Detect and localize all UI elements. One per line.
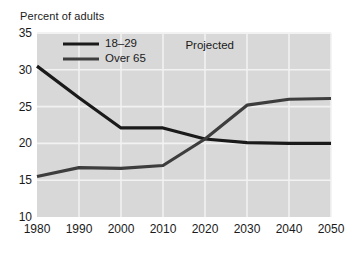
line-chart: Percent of adults 101520253035 198019902… — [0, 0, 352, 255]
y-tick-label: 30 — [2, 64, 32, 76]
x-tick-label: 2020 — [183, 223, 227, 235]
y-tick-label: 20 — [2, 137, 32, 149]
x-tick-label: 2050 — [309, 223, 352, 235]
x-tick-label: 2040 — [267, 223, 311, 235]
x-tick-label: 2000 — [99, 223, 143, 235]
projected-annotation: Projected — [185, 39, 234, 51]
y-tick-label: 15 — [2, 174, 32, 186]
y-tick-label: 25 — [2, 101, 32, 113]
plot-area — [0, 0, 352, 255]
x-tick-label: 2030 — [225, 223, 269, 235]
x-tick-label: 1990 — [57, 223, 101, 235]
y-tick-label: 35 — [2, 27, 32, 39]
legend-item-over-65: Over 65 — [105, 52, 146, 64]
x-tick-label: 2010 — [141, 223, 185, 235]
x-tick-label: 1980 — [15, 223, 59, 235]
legend-item-18-29: 18–29 — [105, 37, 137, 49]
